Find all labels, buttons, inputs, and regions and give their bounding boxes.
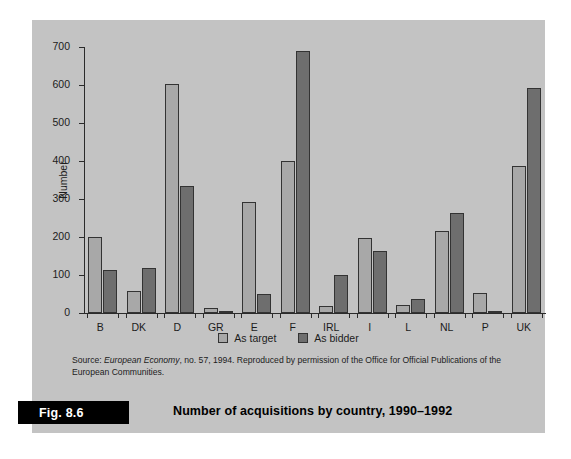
chart-plot-area: Number 0100200300400500600700 BDKDGREFIR… [84, 47, 546, 313]
x-axis-tick [318, 313, 319, 318]
bar-b-target [88, 237, 102, 313]
bar-group-f: F [277, 47, 316, 313]
x-axis-tick [542, 313, 543, 318]
figure-panel: Number 0100200300400500600700 BDKDGREFIR… [32, 20, 545, 433]
y-axis-tick-label: 300 [52, 192, 70, 205]
bar-group-p: P [469, 47, 508, 313]
bar-e-target [242, 202, 256, 313]
y-axis-tick-label: 100 [52, 268, 70, 281]
caption-row: Fig. 8.6 Number of acquisitions by count… [32, 401, 545, 425]
bar-irl-bidder [334, 275, 348, 313]
bar-group-b: B [84, 47, 123, 313]
x-axis-tick [234, 313, 235, 318]
x-axis-tick [157, 313, 158, 318]
bar-nl-bidder [450, 213, 464, 313]
legend-label: As bidder [314, 332, 358, 344]
bar-irl-target [319, 306, 333, 313]
bar-group-d: D [161, 47, 200, 313]
bar-e-bidder [257, 294, 271, 313]
x-axis-tick [426, 313, 427, 318]
legend-swatch-icon [298, 333, 308, 343]
x-axis-tick [472, 313, 473, 318]
bar-dk-bidder [142, 268, 156, 313]
bar-group-nl: NL [431, 47, 470, 313]
bar-gr-bidder [219, 311, 233, 313]
bar-f-target [281, 161, 295, 313]
x-axis-tick [511, 313, 512, 318]
x-axis-tick [311, 313, 312, 318]
y-axis-tick-label: 600 [52, 78, 70, 91]
chart-legend: As targetAs bidder [32, 332, 545, 344]
y-axis-tick: 0 [79, 313, 84, 314]
x-axis-line [84, 313, 546, 314]
bar-group-gr: GR [200, 47, 239, 313]
x-axis-tick [503, 313, 504, 318]
bar-p-bidder [488, 311, 502, 313]
bar-i-target [358, 238, 372, 313]
figure-caption-title: Number of acquisitions by country, 1990–… [173, 404, 452, 418]
bar-l-target [396, 305, 410, 313]
x-axis-tick [349, 313, 350, 318]
bar-d-bidder [180, 186, 194, 313]
legend-label: As target [234, 332, 276, 344]
x-axis-tick [434, 313, 435, 318]
source-publication: European Economy [104, 355, 179, 365]
source-note: Source: European Economy, no. 57, 1994. … [72, 355, 538, 378]
source-prefix: Source: [72, 355, 104, 365]
y-axis-tick-label: 400 [52, 154, 70, 167]
y-axis-tick-label: 0 [64, 306, 70, 319]
y-axis-tick-label: 200 [52, 230, 70, 243]
bar-group-dk: DK [123, 47, 162, 313]
x-axis-tick [87, 313, 88, 318]
y-axis-tick-label: 700 [52, 40, 70, 53]
x-axis-tick [280, 313, 281, 318]
legend-item-target: As target [218, 332, 276, 344]
x-axis-tick [195, 313, 196, 318]
y-axis-tick-label: 500 [52, 116, 70, 129]
x-axis-tick [241, 313, 242, 318]
bar-l-bidder [411, 299, 425, 313]
x-axis-tick [395, 313, 396, 318]
bar-dk-target [127, 291, 141, 313]
x-axis-tick [118, 313, 119, 318]
bar-group-irl: IRL [315, 47, 354, 313]
x-axis-tick [357, 313, 358, 318]
bar-uk-bidder [527, 88, 541, 313]
bar-nl-target [435, 231, 449, 313]
x-axis-tick [203, 313, 204, 318]
bar-i-bidder [373, 251, 387, 313]
bar-group-e: E [238, 47, 277, 313]
bar-group-i: I [354, 47, 393, 313]
x-axis-tick [388, 313, 389, 318]
bar-group-uk: UK [508, 47, 547, 313]
bar-d-target [165, 84, 179, 313]
bar-uk-target [512, 166, 526, 313]
bar-group-l: L [392, 47, 431, 313]
legend-item-bidder: As bidder [298, 332, 358, 344]
bar-gr-target [204, 308, 218, 313]
bar-p-target [473, 293, 487, 313]
legend-swatch-icon [218, 333, 228, 343]
bar-f-bidder [296, 51, 310, 313]
x-axis-tick [465, 313, 466, 318]
x-axis-tick [272, 313, 273, 318]
figure-number-badge: Fig. 8.6 [18, 401, 129, 424]
x-axis-tick [126, 313, 127, 318]
bar-b-bidder [103, 270, 117, 313]
x-axis-tick [164, 313, 165, 318]
